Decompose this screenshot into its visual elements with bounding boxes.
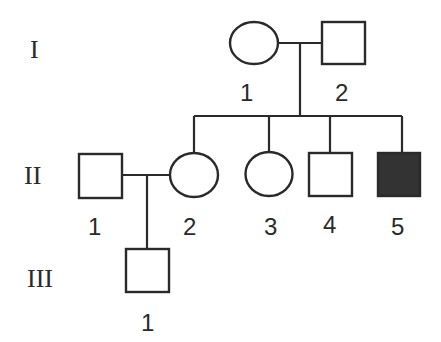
pedigree-chart: I II III 1 2 1 2 3 4 5 1 xyxy=(0,0,441,342)
individual-ii-2-female xyxy=(170,153,218,197)
individual-number-iii-1: 1 xyxy=(141,309,154,336)
generation-label-iii: III xyxy=(27,264,53,293)
individual-number-i-1: 1 xyxy=(240,79,253,106)
generation-label-ii: II xyxy=(24,161,41,190)
individual-number-ii-1: 1 xyxy=(88,213,101,240)
individual-number-i-2: 2 xyxy=(335,79,348,106)
individual-ii-3-female xyxy=(246,152,293,196)
generation-label-i: I xyxy=(30,35,39,64)
individual-number-ii-4: 4 xyxy=(323,211,336,238)
individual-ii-1-male xyxy=(79,154,122,198)
individual-number-ii-2: 2 xyxy=(183,213,196,240)
individual-i-2-male xyxy=(322,22,365,64)
individual-number-ii-3: 3 xyxy=(264,213,277,240)
individual-iii-1-male xyxy=(126,249,169,292)
individual-ii-4-male xyxy=(309,153,352,196)
individual-ii-5-male-affected xyxy=(378,153,420,196)
individual-number-ii-5: 5 xyxy=(391,213,404,240)
individual-i-1-female xyxy=(230,22,278,64)
